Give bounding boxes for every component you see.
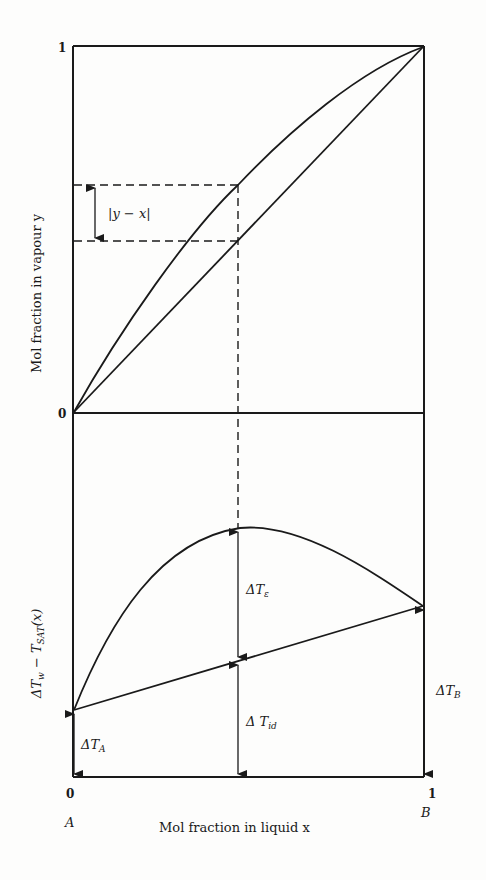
diagonal-line [74, 47, 423, 412]
y-minus-x-label: |y − x| [108, 206, 151, 221]
y-axis-label-vapour: Mol fraction in vapour y [29, 213, 44, 373]
component-b-label: B [420, 805, 431, 820]
component-a-label: A [64, 815, 74, 830]
y-tick-0: 0 [58, 407, 66, 421]
dashed-guides [74, 185, 238, 528]
delta-b-label: ΔTB [435, 683, 461, 700]
vle-boiling-diagram: |y − x| 1 0 Mol fraction in vapour y ΔTε… [0, 0, 486, 880]
x-tick-1: 1 [428, 787, 436, 801]
actual-superheat-curve [74, 527, 423, 710]
delta-a-label: ΔTA [80, 737, 106, 754]
x-axis-label: Mol fraction in liquid x [159, 820, 310, 835]
y-tick-1: 1 [58, 41, 66, 55]
x-tick-0: 0 [66, 787, 74, 801]
delta-id-label: Δ Tid [245, 714, 277, 731]
top-panel-frame [73, 46, 424, 777]
ideal-superheat-line [74, 606, 423, 710]
y-axis-label-superheat: ΔTw − TSAT(x) [29, 609, 46, 699]
delta-e-label: ΔTε [245, 582, 269, 599]
